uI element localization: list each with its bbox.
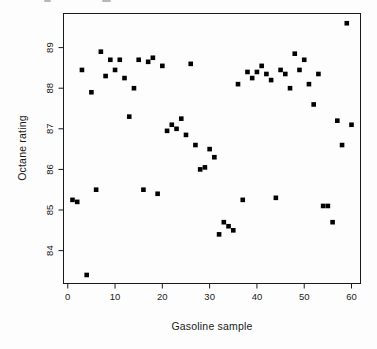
scatter-plot-figure: 0102030405060848586878889 Octane rating … [0, 0, 377, 349]
data-point [198, 167, 203, 172]
data-point [236, 82, 241, 87]
data-point [344, 21, 349, 26]
y-tick-label: 89 [44, 42, 55, 53]
data-point [269, 78, 274, 83]
data-point [255, 70, 260, 75]
data-point [212, 155, 217, 160]
data-point [203, 165, 208, 170]
data-point [127, 114, 132, 119]
data-point [292, 51, 297, 56]
data-point [160, 64, 165, 69]
x-tick-label: 20 [157, 291, 168, 302]
data-point [259, 64, 264, 69]
data-point [174, 127, 179, 132]
data-point [240, 198, 245, 203]
data-point [207, 147, 212, 152]
data-point [302, 57, 307, 62]
x-tick-label: 0 [65, 291, 70, 302]
data-point [307, 82, 312, 87]
data-point [226, 224, 231, 229]
data-point [188, 62, 193, 67]
data-point [84, 273, 89, 278]
x-tick-label: 40 [252, 291, 263, 302]
data-point [103, 74, 108, 79]
data-point [108, 57, 113, 62]
data-point [113, 68, 118, 73]
x-tick-label: 30 [204, 291, 215, 302]
data-point [231, 228, 236, 233]
data-point [179, 116, 184, 121]
data-point [193, 143, 198, 148]
data-point [99, 49, 104, 54]
data-point [70, 198, 75, 203]
data-point [122, 76, 127, 81]
data-point [184, 133, 189, 138]
data-point [151, 55, 156, 60]
x-tick-label: 10 [110, 291, 121, 302]
data-point [321, 204, 326, 209]
x-axis-title: Gasoline sample [171, 320, 252, 332]
data-point [94, 187, 99, 192]
y-tick-label: 87 [44, 124, 55, 135]
data-point [136, 57, 141, 62]
data-point [155, 191, 160, 196]
data-point [132, 86, 137, 91]
data-point [330, 220, 335, 225]
data-point [80, 68, 85, 73]
data-point [349, 122, 354, 127]
data-point [264, 72, 269, 77]
data-point [170, 122, 175, 127]
y-tick-label: 88 [44, 83, 55, 94]
data-point [89, 90, 94, 95]
data-point [311, 102, 316, 107]
data-point [250, 76, 255, 81]
data-point [274, 196, 279, 201]
data-point [335, 118, 340, 123]
data-point [288, 86, 293, 91]
y-axis-title: Octane rating [16, 115, 28, 181]
y-tick-label: 84 [44, 245, 55, 256]
data-point [217, 232, 222, 237]
data-point [278, 68, 283, 73]
data-point [146, 60, 151, 65]
plot-border [64, 14, 361, 284]
data-point [75, 200, 80, 205]
data-point [340, 143, 345, 148]
plot-canvas: 0102030405060848586878889 [0, 0, 377, 349]
x-tick-label: 50 [299, 291, 310, 302]
data-point [141, 187, 146, 192]
data-point [297, 68, 302, 73]
data-point [316, 72, 321, 77]
data-point [245, 70, 250, 75]
data-point [326, 204, 331, 209]
y-tick-label: 85 [44, 205, 55, 216]
y-tick-label: 86 [44, 164, 55, 175]
x-tick-label: 60 [346, 291, 357, 302]
data-point [283, 72, 288, 77]
data-point [222, 220, 227, 225]
data-point [165, 129, 170, 134]
data-point [117, 57, 122, 62]
